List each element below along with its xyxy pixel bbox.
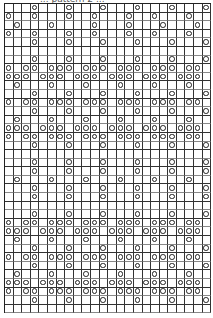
chart-cell	[31, 116, 40, 125]
chart-cell	[143, 253, 152, 262]
chart-cell	[177, 81, 186, 90]
chart-cell	[125, 142, 134, 151]
chart-cell	[117, 296, 126, 305]
chart-cell	[151, 167, 160, 176]
yarn-over-circle-icon	[168, 133, 177, 142]
chart-row	[5, 227, 211, 236]
chart-cell	[203, 288, 212, 297]
chart-cell	[177, 13, 186, 22]
chart-cell	[14, 262, 23, 271]
chart-row	[5, 13, 211, 22]
chart-cell	[48, 296, 57, 305]
chart-cell	[194, 296, 203, 305]
yarn-over-circle-icon	[82, 133, 91, 142]
chart-cell	[48, 13, 57, 22]
chart-cell	[203, 279, 212, 288]
yarn-over-circle-icon	[160, 253, 169, 262]
chart-cell	[57, 47, 66, 56]
yarn-over-circle-icon	[151, 227, 160, 236]
yarn-over-circle-icon	[5, 124, 14, 133]
chart-cell	[57, 38, 66, 47]
yarn-over-circle-icon	[203, 159, 212, 168]
yarn-over-circle-icon	[168, 262, 177, 271]
chart-cell	[108, 150, 117, 159]
yarn-over-circle-icon	[65, 219, 74, 228]
chart-cell	[151, 21, 160, 30]
chart-cell	[117, 167, 126, 176]
yarn-over-circle-icon	[151, 30, 160, 39]
chart-cell	[22, 38, 31, 47]
chart-cell	[74, 64, 83, 73]
yarn-over-circle-icon	[185, 227, 194, 236]
chart-cell	[194, 30, 203, 39]
chart-cell	[22, 245, 31, 254]
chart-cell	[82, 193, 91, 202]
yarn-over-circle-icon	[65, 13, 74, 22]
yarn-over-circle-icon	[125, 21, 134, 30]
yarn-over-circle-icon	[203, 245, 212, 254]
chart-cell	[160, 116, 169, 125]
chart-cell	[48, 262, 57, 271]
chart-row	[5, 107, 211, 116]
yarn-over-circle-icon	[203, 210, 212, 219]
chart-cell	[31, 227, 40, 236]
chart-cell	[91, 150, 100, 159]
yarn-over-circle-icon	[91, 288, 100, 297]
chart-cell	[194, 176, 203, 185]
chart-cell	[14, 4, 23, 13]
chart-cell	[185, 56, 194, 65]
chart-cell	[74, 193, 83, 202]
yarn-over-circle-icon	[31, 253, 40, 262]
chart-cell	[168, 305, 177, 314]
chart-cell	[74, 38, 83, 47]
yarn-over-circle-icon	[134, 4, 143, 13]
yarn-over-circle-icon	[82, 81, 91, 90]
yarn-over-circle-icon	[74, 124, 83, 133]
chart-cell	[108, 38, 117, 47]
chart-cell	[57, 270, 66, 279]
chart-cell	[5, 270, 14, 279]
chart-cell	[125, 159, 134, 168]
yarn-over-circle-icon	[168, 56, 177, 65]
chart-cell	[108, 30, 117, 39]
chart-cell	[39, 219, 48, 228]
chart-cell	[125, 202, 134, 211]
yarn-over-circle-icon	[117, 99, 126, 108]
chart-cell	[108, 64, 117, 73]
chart-cell	[143, 305, 152, 314]
chart-cell	[117, 245, 126, 254]
chart-cell	[14, 56, 23, 65]
chart-cell	[160, 4, 169, 13]
yarn-over-circle-icon	[22, 219, 31, 228]
yarn-over-circle-icon	[151, 73, 160, 82]
chart-cell	[74, 167, 83, 176]
chart-cell	[91, 81, 100, 90]
chart-cell	[57, 296, 66, 305]
chart-cell	[22, 90, 31, 99]
yarn-over-circle-icon	[22, 253, 31, 262]
chart-cell	[14, 133, 23, 142]
chart-cell	[82, 107, 91, 116]
chart-cell	[74, 142, 83, 151]
chart-cell	[5, 56, 14, 65]
chart-cell	[14, 167, 23, 176]
chart-cell	[143, 288, 152, 297]
yarn-over-circle-icon	[134, 56, 143, 65]
yarn-over-circle-icon	[134, 159, 143, 168]
chart-cell	[91, 193, 100, 202]
chart-cell	[168, 150, 177, 159]
yarn-over-circle-icon	[5, 279, 14, 288]
yarn-over-circle-icon	[5, 13, 14, 22]
chart-cell	[134, 21, 143, 30]
yarn-over-circle-icon	[5, 30, 14, 39]
chart-cell	[108, 202, 117, 211]
yarn-over-circle-icon	[194, 288, 203, 297]
chart-cell	[14, 38, 23, 47]
chart-cell	[125, 116, 134, 125]
chart-cell	[134, 270, 143, 279]
chart-cell	[151, 4, 160, 13]
yarn-over-circle-icon	[65, 56, 74, 65]
yarn-over-circle-icon	[125, 30, 134, 39]
chart-cell	[185, 107, 194, 116]
chart-cell	[74, 90, 83, 99]
